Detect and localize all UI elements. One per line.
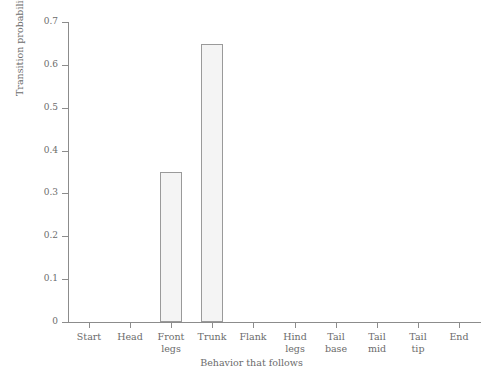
y-axis-tick — [62, 22, 68, 23]
y-axis-line — [68, 22, 69, 323]
bar — [160, 172, 182, 322]
bar-chart-figure: Transition probability 00.10.20.30.40.50… — [0, 0, 503, 381]
x-axis-title: Behavior that follows — [0, 357, 503, 368]
x-axis-tick-label-line: tip — [386, 343, 450, 355]
x-axis-tick — [171, 323, 172, 328]
y-axis-tick — [62, 322, 68, 323]
x-axis-tick — [459, 323, 460, 328]
y-axis-tick — [62, 193, 68, 194]
x-axis-tick — [212, 323, 213, 328]
y-axis-tick — [62, 108, 68, 109]
x-axis-tick-label: End — [427, 331, 491, 343]
y-axis-tick-label: 0.2 — [14, 231, 58, 240]
x-axis-tick — [377, 323, 378, 328]
y-axis-tick-label: 0.6 — [14, 60, 58, 69]
y-axis-tick — [62, 151, 68, 152]
y-axis-tick-label: 0 — [14, 317, 58, 326]
x-axis-title-label: Behavior that follows — [200, 357, 303, 368]
y-axis-tick-label: 0.3 — [14, 188, 58, 197]
x-axis-tick — [336, 323, 337, 328]
bar — [201, 44, 223, 322]
x-axis-tick — [253, 323, 254, 328]
y-axis-tick-label: 0.4 — [14, 146, 58, 155]
x-axis-tick — [130, 323, 131, 328]
y-axis-tick — [62, 236, 68, 237]
y-axis-tick — [62, 279, 68, 280]
x-axis-tick — [295, 323, 296, 328]
y-axis-tick-label: 0.5 — [14, 103, 58, 112]
x-axis-tick-label-line: End — [427, 331, 491, 343]
x-axis-tick — [89, 323, 90, 328]
x-axis-tick-label-line: legs — [139, 343, 203, 355]
x-axis-tick — [418, 323, 419, 328]
y-axis-tick — [62, 65, 68, 66]
y-axis-tick-label: 0.1 — [14, 274, 58, 283]
y-axis-tick-label: 0.7 — [14, 17, 58, 26]
y-axis-ticks: 00.10.20.30.40.50.60.7 — [0, 0, 68, 381]
